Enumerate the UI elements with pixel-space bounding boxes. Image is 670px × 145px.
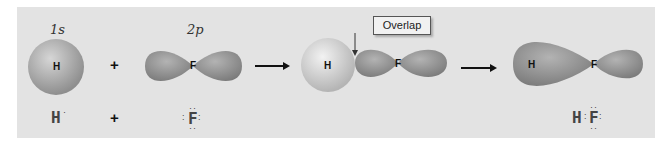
lewis-hf-right-dots: : <box>599 112 603 121</box>
hf-bond-large-lobe <box>513 42 594 86</box>
overlap-f-label: F <box>395 58 401 69</box>
f-atom-label: F <box>190 60 196 71</box>
lewis-f-left-dot: : <box>182 113 186 122</box>
overlap-h-label: H <box>324 60 331 71</box>
overlap-callout: Overlap <box>373 16 431 35</box>
lewis-hf-top-dots: ·· <box>590 103 598 112</box>
h-atom-label: H <box>53 61 60 72</box>
h-orbital-label: 1s <box>50 22 65 37</box>
overlap-f-left-lobe <box>355 50 398 77</box>
lewis-f-right-dots: : <box>198 113 202 122</box>
orbital-diagram-graphics <box>0 0 670 145</box>
overlap-f-right-lobe <box>398 50 447 77</box>
hf-f-label: F <box>591 59 597 70</box>
lewis-hf-h: H <box>572 108 582 127</box>
lewis-f-top-dots: ·· <box>189 104 197 113</box>
hf-h-label: H <box>528 59 535 70</box>
plus-sign-lewis: + <box>110 109 119 126</box>
f-orbital-label: 2p <box>187 22 204 37</box>
hf-bond-small-lobe <box>594 50 643 79</box>
lewis-h: H <box>51 108 61 127</box>
f-2p-left-lobe <box>145 51 193 81</box>
lewis-h-dot: · <box>63 108 67 117</box>
plus-sign-orbitals: + <box>110 56 119 73</box>
f-2p-right-lobe <box>193 51 242 81</box>
lewis-hf-bond-pair: : <box>584 112 588 121</box>
lewis-f-bottom-dots: ·· <box>189 124 197 133</box>
lewis-hf-bottom-dots: ·· <box>590 124 598 133</box>
